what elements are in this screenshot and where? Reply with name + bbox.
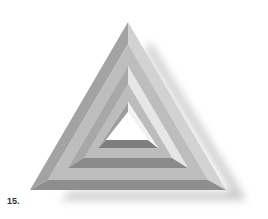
figure-number-label: 15. [7,196,20,206]
nested-triangle-illustration [0,0,268,219]
